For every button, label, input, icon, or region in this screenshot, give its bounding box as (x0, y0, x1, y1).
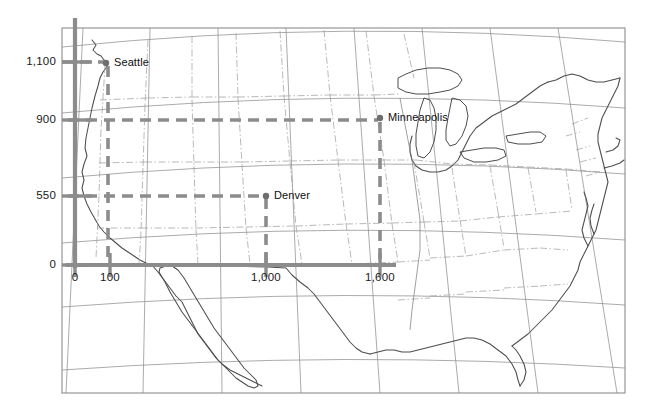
city-marker-minneapolis (377, 115, 383, 121)
city-label-seattle: Seattle (114, 56, 149, 68)
x-axis-label-1000: 1,000 (238, 271, 294, 283)
x-axis-label-100: 100 (92, 271, 128, 283)
y-axis-label-550: 550 (0, 189, 56, 201)
city-label-minneapolis: Minneapolis (388, 111, 448, 123)
x-axis-label-0: 0 (61, 271, 89, 283)
y-axis-label-1100: 1,100 (0, 55, 56, 67)
map-figure (0, 0, 652, 417)
city-marker-seattle (103, 60, 109, 66)
city-marker-denver (263, 193, 269, 199)
city-label-denver: Denver (274, 189, 310, 201)
figure-root: 1,100 900 550 0 0 100 1,000 1,600 Seattl… (0, 0, 652, 417)
x-axis-label-1600: 1,600 (352, 271, 408, 283)
y-axis-label-900: 900 (0, 113, 56, 125)
y-axis-label-0: 0 (0, 258, 56, 270)
